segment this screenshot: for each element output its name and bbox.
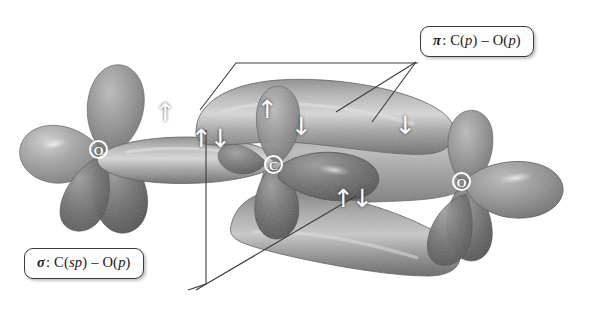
- pi-symbol: π: [433, 32, 442, 48]
- electron-spin-arrow-up-upper-pi: ↑: [257, 97, 276, 122]
- sigma-symbol: σ: [37, 254, 46, 270]
- electron-spin-arrow-down-carbon-pi: ↓: [291, 114, 310, 139]
- pi-description: C(p) – O(p): [450, 32, 521, 48]
- atom-label-oxygen-left: O: [89, 140, 108, 159]
- electron-spin-arrow-paired-left-sigma: ↑↓: [191, 126, 229, 151]
- electron-spin-arrow-paired-right-sigma: ↑↓: [333, 186, 371, 211]
- atom-label-oxygen-right: O: [452, 172, 471, 191]
- sigma-description: C(sp) – O(p): [54, 254, 131, 270]
- electron-spin-arrow-down-right-pi: ↓: [395, 113, 414, 138]
- callout-sigma-bond: σ: C(sp) – O(p): [24, 248, 144, 279]
- callout-pi-bond: π: C(p) – O(p): [420, 26, 534, 57]
- pi-orbital-upper-tube: [196, 79, 455, 154]
- leader-line-sigma-left-stem: [188, 250, 206, 290]
- atom-label-carbon: C: [264, 155, 283, 174]
- electron-spin-arrow-up-left-pi: ↑: [155, 100, 174, 125]
- sigma-separator: :: [46, 254, 50, 270]
- pi-separator: :: [442, 32, 446, 48]
- orbital-diagram-figure: O C O ↑ ↑↓ ↑ ↓ ↑↓ ↓ π: C(p) – O(p) σ: C(…: [0, 0, 590, 318]
